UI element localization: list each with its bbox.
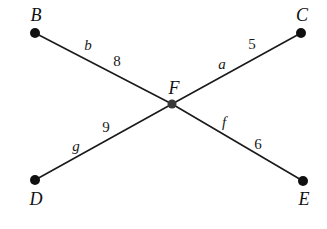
edge-label-g: g <box>72 139 80 154</box>
edge-weight-g: 9 <box>102 120 110 135</box>
node-dot-d <box>30 175 40 185</box>
edge-label-b: b <box>84 38 92 53</box>
faint-artifact-left: . <box>148 170 151 186</box>
vertex-label-f: F <box>169 79 180 97</box>
vertex-label-b: B <box>31 6 42 24</box>
vertex-label-d: D <box>30 190 43 208</box>
edge-label-f: f <box>222 115 226 130</box>
edge-weight-a: 5 <box>248 37 256 52</box>
node-dot-f <box>168 100 177 109</box>
edge-label-a: a <box>218 57 226 72</box>
edge-line-g <box>35 104 172 180</box>
node-dot-b <box>30 28 40 38</box>
edge-weight-f: 6 <box>254 137 262 152</box>
edge-line-b <box>35 33 172 104</box>
edge-line-f <box>172 104 303 181</box>
graph-diagram: B C F D E b a g f 8 5 9 6 . . <box>0 0 327 229</box>
faint-artifact-right: . <box>188 168 191 184</box>
vertex-label-c: C <box>296 6 308 24</box>
node-dot-c <box>296 28 306 38</box>
vertex-label-e: E <box>299 190 310 208</box>
edge-weight-b: 8 <box>113 54 121 69</box>
node-dot-e <box>298 176 308 186</box>
edge-line-a <box>172 33 301 104</box>
edge-lines-layer <box>0 0 327 229</box>
